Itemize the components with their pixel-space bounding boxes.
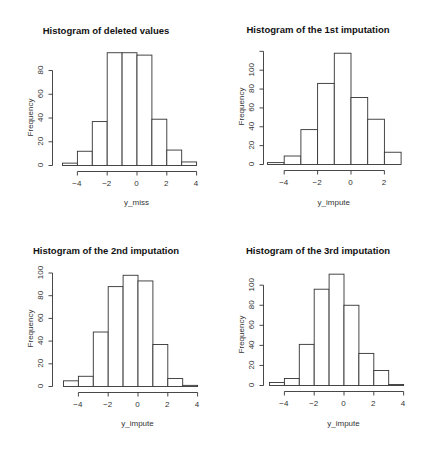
x-axis: −4−202 — [279, 171, 387, 188]
svg-text:20: 20 — [36, 358, 45, 367]
svg-text:100: 100 — [247, 277, 256, 291]
x-axis-label: y_impute — [98, 419, 178, 428]
histogram-bar — [268, 163, 285, 165]
histogram-bar — [368, 119, 385, 164]
histogram-bar — [137, 55, 152, 165]
histogram-bar — [284, 156, 301, 164]
y-axis-label: Frequency — [237, 304, 246, 364]
histogram-bar — [122, 53, 137, 166]
svg-text:0: 0 — [135, 400, 140, 409]
x-axis: −4−2024 — [72, 172, 199, 189]
svg-text:100: 100 — [247, 62, 256, 76]
svg-text:2: 2 — [165, 400, 170, 409]
histogram-bar — [123, 275, 138, 386]
histogram-bar — [344, 305, 359, 385]
svg-text:20: 20 — [247, 140, 256, 149]
svg-text:40: 40 — [247, 121, 256, 130]
svg-text:40: 40 — [247, 340, 256, 349]
histogram-bar — [314, 289, 329, 385]
x-axis: −4−2024 — [73, 393, 200, 410]
histogram-bar — [359, 353, 374, 385]
histogram-bar — [63, 163, 78, 165]
svg-text:80: 80 — [36, 290, 45, 299]
y-axis-label: Frequency — [237, 77, 246, 137]
svg-text:60: 60 — [36, 313, 45, 322]
y-axis: 020406080100 — [247, 51, 264, 166]
histogram-bar — [374, 370, 389, 385]
svg-text:4: 4 — [401, 399, 406, 408]
histogram-bar — [167, 150, 182, 165]
histogram-bar — [138, 281, 153, 387]
svg-text:−4: −4 — [73, 400, 83, 409]
histogram-bar — [301, 130, 318, 165]
x-axis-label: y_impute — [294, 198, 374, 207]
histogram-bar — [78, 376, 93, 386]
svg-text:−2: −2 — [102, 179, 112, 188]
histogram-bar — [108, 287, 123, 387]
svg-text:2: 2 — [164, 179, 169, 188]
y-axis-label: Frequency — [26, 87, 35, 147]
svg-text:0: 0 — [36, 383, 45, 388]
svg-text:0: 0 — [348, 178, 353, 187]
svg-text:20: 20 — [36, 136, 45, 145]
panel-2nd-imputation: Histogram of the 2nd imputation −4−20240… — [0, 225, 212, 450]
svg-text:−2: −2 — [103, 400, 113, 409]
svg-text:20: 20 — [247, 360, 256, 369]
svg-text:0: 0 — [247, 161, 256, 166]
panel-3rd-imputation: Histogram of the 3rd imputation −4−20240… — [212, 225, 424, 450]
svg-text:0: 0 — [36, 162, 45, 167]
histogram-bar — [351, 98, 368, 165]
histogram-bar — [168, 379, 183, 387]
histogram-bar — [107, 53, 122, 166]
svg-text:4: 4 — [194, 179, 199, 188]
svg-text:−4: −4 — [279, 399, 289, 408]
svg-text:80: 80 — [247, 84, 256, 93]
y-axis-label: Frequency — [26, 299, 35, 359]
histogram-bar — [182, 162, 197, 166]
svg-text:80: 80 — [247, 300, 256, 309]
y-axis: 020406080 — [36, 65, 53, 167]
histogram-figure: Histogram of deleted values −4−202402040… — [0, 0, 425, 450]
panel-1st-imputation: Histogram of the 1st imputation −4−20202… — [212, 0, 424, 225]
y-axis: 020406080100 — [36, 265, 53, 388]
svg-text:0: 0 — [134, 179, 139, 188]
histogram-bar — [318, 83, 335, 164]
y-axis: 020406080100 — [247, 277, 264, 387]
svg-text:−2: −2 — [313, 178, 323, 187]
histogram-bar — [64, 381, 79, 387]
histogram-bar — [92, 122, 107, 166]
histogram-bar — [389, 384, 404, 385]
histogram-bar — [384, 152, 401, 164]
histogram-bar — [299, 344, 314, 385]
x-axis: −4−2024 — [279, 392, 406, 409]
panel-deleted-values: Histogram of deleted values −4−202402040… — [0, 0, 212, 225]
x-axis-label: y_impute — [304, 419, 384, 428]
histogram-bar — [284, 378, 299, 385]
svg-text:−4: −4 — [72, 179, 82, 188]
svg-text:60: 60 — [247, 102, 256, 111]
histogram-bar — [153, 345, 168, 387]
x-axis-label: y_miss — [97, 198, 177, 207]
svg-text:0: 0 — [247, 382, 256, 387]
svg-text:80: 80 — [36, 65, 45, 74]
histogram-bar — [270, 382, 285, 385]
histogram-bar — [334, 53, 351, 164]
histogram-bar — [183, 385, 198, 386]
svg-text:60: 60 — [247, 320, 256, 329]
histogram-bar — [152, 119, 167, 165]
svg-text:100: 100 — [36, 265, 45, 279]
svg-text:−2: −2 — [309, 399, 319, 408]
svg-text:4: 4 — [195, 400, 200, 409]
svg-text:40: 40 — [36, 113, 45, 122]
svg-text:40: 40 — [36, 336, 45, 345]
svg-text:2: 2 — [371, 399, 376, 408]
histogram-bar — [77, 151, 92, 165]
svg-text:−4: −4 — [279, 178, 289, 187]
histogram-bar — [93, 332, 108, 386]
svg-text:0: 0 — [341, 399, 346, 408]
svg-text:60: 60 — [36, 89, 45, 98]
histogram-bar — [329, 274, 344, 385]
svg-text:2: 2 — [382, 178, 387, 187]
